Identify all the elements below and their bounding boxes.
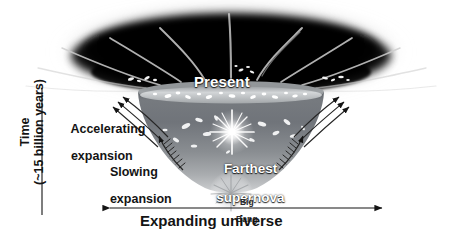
y-axis-label-line1: Time (18, 118, 32, 147)
slowing-label-line1: Slowing (110, 165, 158, 179)
y-axis-label-line2: (~15 billion years) (32, 79, 46, 185)
accelerating-label-line1: Accelerating (70, 122, 145, 136)
slowing-label-line2: expansion (110, 192, 172, 206)
big-bang-label-line1: Big (240, 197, 254, 207)
x-axis-label: Expanding universe (140, 213, 283, 229)
slowing-expansion-label: Slowing expansion (96, 152, 172, 220)
figure-canvas: Present Farthest supernova Big Bang Acce… (0, 0, 462, 239)
y-axis-label: Time (~15 billion years) (18, 62, 46, 202)
supernova-label-line1: Farthest (224, 161, 277, 176)
present-label: Present (194, 74, 250, 90)
